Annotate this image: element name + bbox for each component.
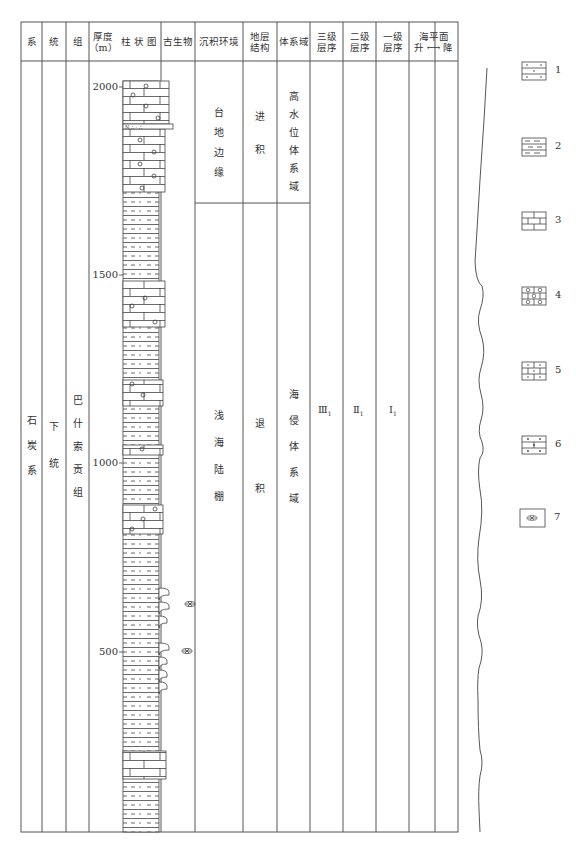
header-second-order-l2: 层序 [350, 42, 370, 53]
depth-tick-1000: 1000 [84, 457, 118, 468]
tract-char: 位 [289, 124, 299, 139]
seq-sub: 1 [393, 410, 397, 417]
header-environment: 沉积环境 [195, 22, 243, 61]
formation-char: 贡 [73, 461, 83, 476]
lower-environment: 浅 海 陆 棚 [195, 407, 243, 503]
tract-char: 系 [289, 464, 299, 479]
seq-roman: Ⅲ [318, 404, 328, 415]
header-structure-l1: 地层 [250, 31, 270, 42]
depth-tick-500: 500 [84, 646, 118, 657]
legend-num: 5 [555, 364, 561, 375]
legend-item-limestone: 3 [549, 214, 561, 225]
tract-char: 域 [289, 178, 299, 193]
header-second-order: 二级 层序 [343, 22, 376, 61]
env-char: 地 [214, 124, 224, 139]
header-first-order-l2: 层序 [383, 42, 403, 53]
seq-sub: 1 [360, 410, 364, 417]
formation-char: 组 [73, 484, 83, 499]
header-fossils: 古生物 [161, 22, 195, 61]
legend-num: 3 [555, 214, 561, 225]
header-thickness-unit: （m） [89, 42, 118, 53]
depth-tick-1500: 1500 [84, 269, 118, 280]
legend-item-argillaceous: 6 [549, 438, 561, 449]
legend-num: 1 [555, 64, 561, 75]
header-sea-level: 海平面 升 ⟷ 降 [409, 22, 458, 61]
depth-tick-2000: 2000 [84, 81, 118, 92]
series-char: 统 [49, 455, 59, 470]
legend-item-sandy-limestone: 5 [549, 364, 561, 375]
structure-char: 退 [255, 415, 265, 430]
upper-structure: 进 积 [243, 108, 277, 156]
tract-char: 高 [289, 88, 299, 103]
tract-char: 体 [289, 438, 299, 453]
third-order-sequence: Ⅲ1 [318, 404, 331, 417]
formation-char: 巴 [73, 392, 83, 407]
legend-num: 6 [555, 438, 561, 449]
upper-environment: 台 地 边 缘 [195, 104, 243, 179]
header-thickness: 厚度 （m） [89, 22, 117, 61]
sea-level-fall-label: 降 [443, 42, 453, 53]
structure-char: 积 [255, 480, 265, 495]
formation-char: 什 [73, 415, 83, 430]
header-systems-tract: 体系域 [277, 22, 310, 61]
header-formation: 组 [66, 22, 89, 61]
series-name: 下 统 [42, 418, 66, 470]
sea-level-rise-label: 升 [414, 42, 424, 53]
lower-systems-tract: 海 侵 体 系 域 [277, 386, 310, 505]
header-sea-level-label: 海平面 [419, 31, 449, 42]
header-third-order-l1: 三级 [317, 31, 337, 42]
seq-roman: Ⅱ [353, 404, 360, 415]
legend-num: 7 [554, 511, 560, 522]
env-char: 台 [214, 104, 224, 119]
sea-level-curve [475, 68, 487, 832]
header-system: 系 [21, 22, 42, 61]
lower-structure: 退 积 [243, 415, 277, 495]
env-char: 缘 [214, 164, 224, 179]
env-char: 陆 [214, 461, 224, 476]
legend-num: 2 [555, 140, 561, 151]
double-arrow-icon: ⟷ [427, 42, 441, 53]
system-char: 炭 [27, 437, 37, 452]
env-char: 海 [214, 434, 224, 449]
env-char: 边 [214, 144, 224, 159]
header-first-order-l1: 一级 [383, 31, 403, 42]
header-third-order: 三级 层序 [310, 22, 343, 61]
formation-name: 巴 什 索 贡 组 [66, 392, 89, 499]
header-second-order-l1: 二级 [350, 31, 370, 42]
tract-char: 海 [289, 386, 299, 401]
header-structure: 地层 结构 [243, 22, 277, 61]
legend-num: 4 [555, 289, 561, 300]
system-char: 石 [27, 412, 37, 427]
system-char: 系 [27, 462, 37, 477]
first-order-sequence: Ⅰ1 [389, 404, 397, 417]
tract-char: 系 [289, 160, 299, 175]
legend-item-oolitic: 4 [549, 289, 561, 300]
upper-systems-tract: 高 水 位 体 系 域 [277, 88, 310, 193]
structure-char: 积 [255, 141, 265, 156]
legend-item-arkose: 1 [549, 64, 561, 75]
structure-char: 进 [255, 108, 265, 123]
second-order-sequence: Ⅱ1 [353, 404, 364, 417]
header-sea-level-direction: 升 ⟷ 降 [414, 42, 454, 53]
header-third-order-l2: 层序 [317, 42, 337, 53]
tract-char: 水 [289, 106, 299, 121]
series-char: 下 [49, 418, 59, 433]
formation-char: 索 [73, 438, 83, 453]
seq-sub: 1 [328, 410, 332, 417]
system-name: 石 炭 系 [21, 412, 42, 477]
legend-item-fossil: 7 [548, 511, 560, 522]
header-thickness-label: 厚度 [93, 31, 113, 42]
svg-text:N ∴ · ∴: N ∴ · ∴ [125, 124, 142, 130]
env-char: 浅 [214, 407, 224, 422]
tract-char: 域 [289, 490, 299, 505]
header-structure-l2: 结构 [250, 42, 270, 53]
tract-char: 侵 [289, 412, 299, 427]
header-series: 统 [42, 22, 66, 61]
header-first-order: 一级 层序 [376, 22, 409, 61]
tract-char: 体 [289, 142, 299, 157]
legend-item-mudstone: 2 [549, 140, 561, 151]
header-column: 柱 状 图 [117, 22, 161, 61]
env-char: 棚 [214, 488, 224, 503]
